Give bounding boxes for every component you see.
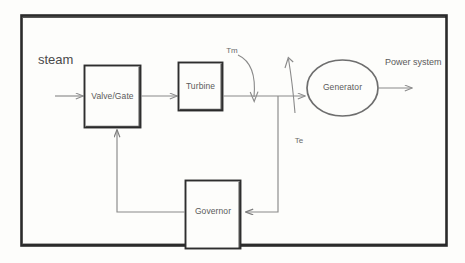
block-valve-gate-label: Valve/Gate — [91, 91, 134, 101]
power-system-label: Power system — [385, 57, 442, 67]
block-generator-label: Generator — [323, 82, 362, 92]
steam-input-label: steam — [38, 52, 73, 67]
diagram-canvas: Valve/Gate Turbine Tm Te Generator Power… — [0, 0, 465, 263]
torque-electrical-label: Te — [295, 136, 304, 145]
power-system-block-diagram: Valve/Gate Turbine Tm Te Generator Power… — [0, 0, 465, 263]
torque-mechanical-label: Tm — [226, 46, 238, 55]
block-governor-label: Governor — [195, 206, 231, 216]
block-turbine-label: Turbine — [186, 81, 215, 91]
